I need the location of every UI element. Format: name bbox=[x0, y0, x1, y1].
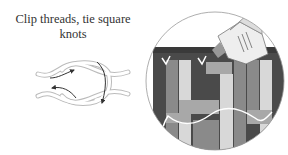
magnified-weave-icon bbox=[140, 0, 288, 155]
illustration-canvas bbox=[0, 0, 288, 155]
square-knot-icon bbox=[38, 63, 128, 104]
